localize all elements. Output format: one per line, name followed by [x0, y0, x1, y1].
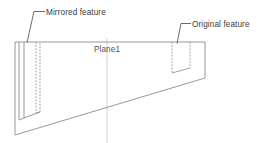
original-slot-hidden-bottom-edge	[172, 68, 190, 73]
cad-drawing-svg: Mirrored feature Original feature Plane1	[0, 0, 270, 143]
original-feature-label: Original feature	[192, 20, 250, 29]
plane-label: Plane1	[94, 45, 120, 54]
mirrored-feature-label: Mirrored feature	[46, 8, 106, 17]
part-body-outline	[15, 42, 205, 135]
cad-diagram-canvas: Mirrored feature Original feature Plane1	[0, 0, 270, 143]
original-feature-leader-line	[177, 24, 191, 44]
mirrored-feature-leader-line	[27, 12, 45, 43]
